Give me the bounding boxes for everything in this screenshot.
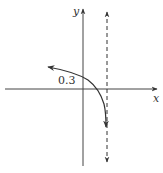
x-axis-label: x — [153, 92, 160, 105]
y-axis-label: y — [72, 5, 80, 18]
function-curve — [48, 67, 106, 127]
curve-value-label: 0.3 — [58, 74, 76, 87]
graph-canvas: y x 0.3 — [0, 0, 163, 173]
